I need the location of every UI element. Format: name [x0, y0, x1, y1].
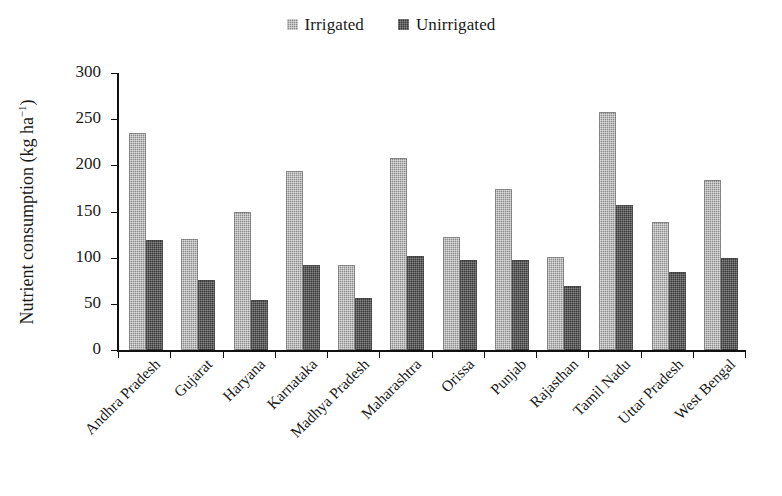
y-axis-tick: 300	[111, 73, 118, 74]
chart-legend: Irrigated Unirrigated	[0, 16, 782, 33]
bar-group	[547, 73, 581, 350]
x-axis-label: Haryana	[220, 356, 268, 404]
x-axis-tick	[484, 351, 485, 358]
y-axis-tick-label: 0	[93, 340, 102, 357]
x-axis-tick	[275, 351, 276, 358]
x-axis-tick	[432, 351, 433, 358]
y-axis-tick-label: 100	[76, 248, 102, 265]
bar-group	[704, 73, 738, 350]
bar-irrigated	[129, 133, 146, 350]
bar-unirrigated	[251, 300, 268, 350]
x-axis-tick	[379, 351, 380, 358]
legend-swatch-unirrigated	[398, 19, 409, 30]
x-axis-label: Orissa	[438, 356, 477, 395]
bar-unirrigated	[721, 258, 738, 350]
bar-unirrigated	[616, 205, 633, 350]
y-axis-tick: 250	[111, 119, 118, 120]
bar-irrigated	[286, 171, 303, 350]
bar-unirrigated	[303, 265, 320, 350]
legend-entry-irrigated: Irrigated	[287, 16, 364, 33]
bar-irrigated	[181, 239, 198, 350]
bar-unirrigated	[669, 272, 686, 350]
bar-irrigated	[390, 158, 407, 350]
x-axis-label: Gujarat	[172, 356, 216, 400]
bar-group	[181, 73, 215, 350]
bar-group	[286, 73, 320, 350]
bar-unirrigated	[460, 260, 477, 350]
bar-irrigated	[704, 180, 721, 350]
bar-unirrigated	[512, 260, 529, 350]
y-axis-tick-label: 300	[76, 63, 102, 80]
y-axis-tick: 200	[111, 165, 118, 166]
y-axis-tick: 50	[111, 304, 118, 305]
bar-irrigated	[652, 222, 669, 350]
bar-unirrigated	[407, 256, 424, 350]
x-axis-tick	[588, 351, 589, 358]
bar-group	[652, 73, 686, 350]
bar-irrigated	[234, 212, 251, 351]
bar-unirrigated	[355, 298, 372, 350]
bar-group	[338, 73, 372, 350]
bar-irrigated	[495, 189, 512, 350]
bar-irrigated	[547, 257, 564, 350]
bar-irrigated	[338, 265, 355, 350]
y-axis-tick-label: 200	[76, 155, 102, 172]
bar-unirrigated	[198, 280, 215, 350]
x-axis-tick	[536, 351, 537, 358]
bar-unirrigated	[146, 240, 163, 350]
y-axis-tick-label: 150	[76, 202, 102, 219]
bar-group	[390, 73, 424, 350]
legend-swatch-irrigated	[287, 19, 298, 30]
y-axis-title-paren: )	[17, 99, 37, 105]
x-axis-tick	[223, 351, 224, 358]
legend-label-irrigated: Irrigated	[305, 16, 364, 33]
plot-area: 050100150200250300	[118, 73, 745, 350]
y-axis-tick: 150	[111, 212, 118, 213]
bar-irrigated	[443, 237, 460, 350]
y-axis-tick: 100	[111, 258, 118, 259]
x-axis-tick	[641, 351, 642, 358]
bar-group	[129, 73, 163, 350]
bar-group	[495, 73, 529, 350]
x-axis-label: Andhra Pradesh	[82, 356, 163, 437]
y-axis-tick-label: 50	[84, 294, 101, 311]
bar-unirrigated	[564, 286, 581, 350]
y-axis-title-text: Nutrient consumption (kg ha	[17, 117, 37, 324]
bar-group	[599, 73, 633, 350]
y-axis-title-exponent: −1	[16, 105, 28, 117]
y-axis-tick-label: 250	[76, 109, 102, 126]
x-axis-tick	[118, 351, 119, 358]
x-axis-tick	[745, 351, 746, 358]
y-axis-tick: 0	[111, 350, 118, 351]
bar-group	[443, 73, 477, 350]
x-axis-tick	[170, 351, 171, 358]
legend-entry-unirrigated: Unirrigated	[398, 16, 495, 33]
legend-label-unirrigated: Unirrigated	[416, 16, 495, 33]
x-axis-tick	[693, 351, 694, 358]
x-axis-tick	[327, 351, 328, 358]
bar-group	[234, 73, 268, 350]
x-axis-label: Punjab	[487, 356, 528, 397]
y-axis-title: Nutrient consumption (kg ha−1)	[14, 73, 40, 350]
bar-irrigated	[599, 112, 616, 350]
bar-chart-figure: Irrigated Unirrigated Nutrient consumpti…	[0, 0, 782, 496]
